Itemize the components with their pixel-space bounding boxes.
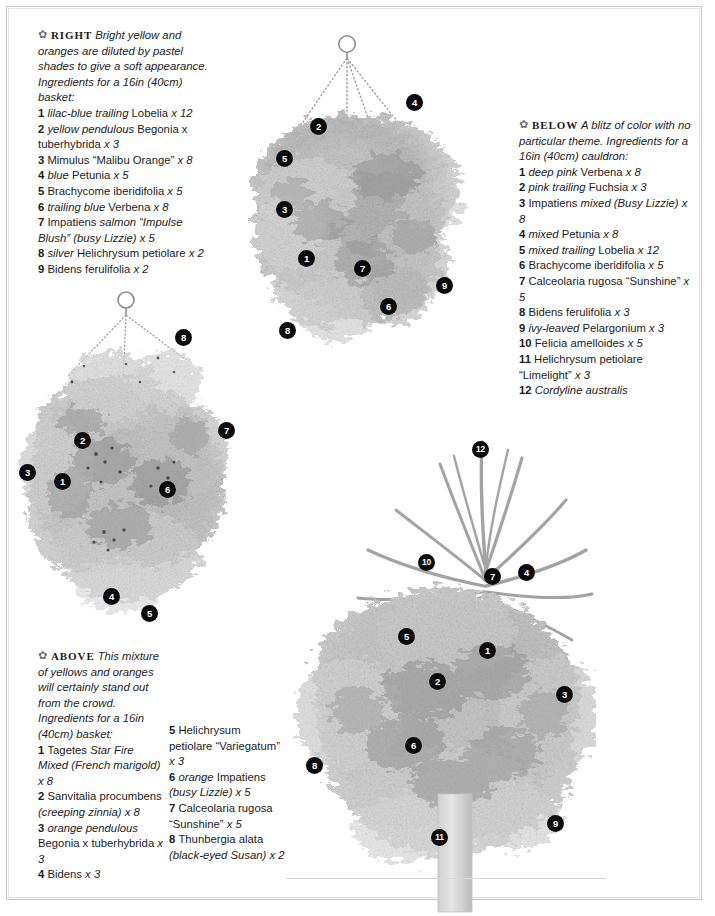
callout-badge-9: 9: [547, 815, 564, 832]
ingredient-name: Lobelia: [598, 244, 638, 256]
ingredient-quantity: x 2: [269, 849, 284, 861]
ingredient-number: 7: [519, 275, 528, 287]
callout-badge-7: 7: [354, 260, 371, 277]
callout-badge-2: 2: [429, 673, 446, 690]
ingredient-item: 2 yellow pendulous Begonia x tuberhybrid…: [38, 122, 210, 153]
ingredient-modifier: orange pendulous: [47, 822, 137, 834]
callout-badge-2: 2: [310, 118, 327, 135]
ingredient-item: 9 ivy-leaved Pelargonium x 3: [519, 321, 691, 337]
ingredient-quantity: x 8: [626, 166, 641, 178]
caption-above-text: This mixture of yellows and oranges will…: [38, 650, 159, 740]
ingredient-name: Bidens ferulifolia: [47, 263, 133, 275]
ingredient-variety: mixed (Busy Lizzie): [581, 197, 682, 209]
ingredient-quantity: x 2: [133, 263, 148, 275]
ingredient-number: 1: [519, 166, 528, 178]
callout-badge-1: 1: [54, 473, 71, 490]
callout-badge-5: 5: [276, 150, 293, 167]
ingredient-cultivar: “Variegatum”: [215, 740, 279, 752]
ingredient-item: 6 orange Impatiens (busy Lizzie) x 5: [169, 770, 287, 801]
ingredient-variety: (busy Lizzie): [169, 786, 236, 798]
ingredient-number: 3: [38, 154, 47, 166]
callout-badge-3: 3: [556, 686, 573, 703]
ingredient-item: 2 Sanvitalia procumbens (creeping zinnia…: [38, 789, 166, 820]
ingredient-item: 4 Bidens x 3: [38, 867, 166, 883]
caption-right-list: 1 lilac-blue trailing Lobelia x 12 2 yel…: [38, 106, 210, 278]
ingredient-quantity: x 3: [169, 755, 184, 767]
ingredient-number: 9: [519, 322, 528, 334]
ingredient-quantity: x 3: [85, 868, 100, 880]
ingredient-number: 6: [38, 201, 47, 213]
caption-right-kicker: RIGHT: [51, 29, 92, 41]
ingredient-name: Sanvitalia procumbens: [47, 790, 161, 802]
ingredient-cultivar: “Sunshine”: [626, 275, 684, 287]
ingredient-number: 11: [519, 353, 534, 365]
ingredient-quantity: x 12: [171, 107, 192, 119]
ingredient-item: 6 trailing blue Verbena x 8: [38, 200, 210, 216]
ingredient-quantity: x 5: [236, 786, 251, 798]
ingredient-number: 2: [519, 181, 528, 193]
ingredient-number: 3: [38, 822, 47, 834]
caption-right-intro: ✿RIGHTBright yellow and oranges are dilu…: [38, 28, 210, 106]
ingredient-modifier: yellow pendulous: [47, 123, 137, 135]
ingredient-quantity: x 3: [104, 138, 119, 150]
caption-above-list-1: 1 Tagetes Star Fire Mixed (French marigo…: [38, 743, 166, 883]
caption-right: ✿RIGHTBright yellow and oranges are dilu…: [38, 28, 210, 278]
ingredient-item: 4 mixed Petunia x 8: [519, 227, 691, 243]
ingredient-variety: (creeping zinnia): [38, 806, 125, 818]
callout-badge-7: 7: [484, 568, 501, 585]
ingredient-name: Tagetes: [47, 744, 90, 756]
ingredient-number: 7: [38, 216, 47, 228]
ingredient-quantity: x 5: [167, 185, 182, 197]
ingredient-item: 4 blue Petunia x 5: [38, 168, 210, 184]
callout-badge-4: 4: [103, 588, 120, 605]
ingredient-number: 8: [38, 247, 47, 259]
ingredient-name: Impatiens: [217, 771, 266, 783]
basket-hook: [118, 292, 134, 316]
ingredient-quantity: x 8: [38, 775, 53, 787]
ingredient-modifier: trailing blue: [47, 201, 108, 213]
ingredient-item: 1 Tagetes Star Fire Mixed (French marigo…: [38, 743, 166, 790]
callout-badge-6: 6: [405, 737, 422, 754]
callout-badge-6: 6: [380, 298, 397, 315]
ingredient-quantity: x 8: [603, 228, 618, 240]
callout-badge-8: 8: [175, 329, 192, 346]
ingredient-quantity: x 3: [614, 306, 629, 318]
ingredient-item: 1 deep pink Verbena x 8: [519, 165, 691, 181]
ingredient-modifier: ivy-leaved: [528, 322, 582, 334]
ingredient-number: 12: [519, 384, 535, 396]
ingredient-item: 1 lilac-blue trailing Lobelia x 12: [38, 106, 210, 122]
callout-badge-6: 6: [159, 481, 176, 498]
ingredient-modifier: lilac-blue trailing: [47, 107, 131, 119]
ingredient-item: 7 Impatiens salmon “Impulse Blush” (busy…: [38, 215, 210, 246]
leaf-ornament: ✿: [38, 27, 51, 43]
ingredient-item: 5 Helichrysum petiolare “Variegatum” x 3: [169, 723, 287, 770]
leaf-ornament: ✿: [38, 648, 51, 664]
basket-hook: [339, 36, 355, 59]
ingredient-item: 5 Brachycome iberidifolia x 5: [38, 184, 210, 200]
ingredient-quantity: x 5: [140, 232, 155, 244]
callout-badge-3: 3: [276, 201, 293, 218]
ingredient-item: 12 Cordyline australis: [519, 383, 691, 399]
leaf-ornament: ✿: [519, 117, 532, 133]
ingredient-number: 6: [519, 259, 528, 271]
ingredient-item: 8 Thunbergia alata (black-eyed Susan) x …: [169, 832, 287, 863]
ingredient-name: Mimulus: [47, 154, 92, 166]
callout-badge-5: 5: [398, 628, 415, 645]
ingredient-number: 4: [38, 169, 47, 181]
ingredient-name: Calceolaria rugosa: [178, 802, 272, 814]
ingredient-name: Brachycome iberidifolia: [528, 259, 648, 271]
ingredient-name: Fuchsia: [589, 181, 632, 193]
caption-above-kicker: ABOVE: [51, 650, 95, 662]
ingredient-number: 9: [38, 263, 47, 275]
ingredient-modifier: orange: [178, 771, 216, 783]
caption-below-kicker: BELOW: [532, 119, 578, 131]
ingredient-name: Impatiens: [528, 197, 580, 209]
ingredient-number: 1: [38, 107, 47, 119]
ingredient-item: 7 Calceolaria rugosa “Sunshine” x 5: [169, 801, 287, 832]
ingredient-number: 6: [169, 771, 178, 783]
caption-above-list-2: 5 Helichrysum petiolare “Variegatum” x 3…: [169, 723, 287, 863]
ingredient-item: 3 orange pendulous Begonia x tuberhybrid…: [38, 821, 166, 868]
ingredient-quantity: x 12: [638, 244, 659, 256]
caption-above-intro: ✿ABOVEThis mixture of yellows and orange…: [38, 649, 166, 743]
ingredient-name: Bidens: [47, 868, 85, 880]
